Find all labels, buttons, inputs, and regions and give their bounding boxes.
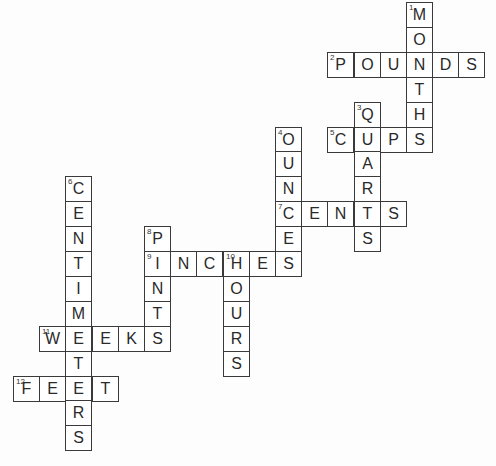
clue-number: 8 [147, 227, 151, 236]
crossword-cell[interactable]: I [65, 276, 92, 302]
cell-letter: E [73, 330, 84, 348]
cell-letter: O [413, 31, 425, 49]
crossword-cell[interactable]: S [406, 127, 433, 153]
cell-letter: O [282, 131, 294, 149]
crossword-cell[interactable]: C6 [65, 176, 92, 202]
clue-number: 12 [16, 377, 25, 386]
crossword-cell[interactable]: C5 [327, 127, 354, 153]
crossword-cell[interactable]: N [144, 276, 171, 302]
crossword-cell[interactable]: T [406, 77, 433, 103]
cell-letter: S [283, 255, 294, 273]
crossword-cell[interactable]: U [275, 151, 302, 177]
cell-letter: O [361, 56, 373, 74]
crossword-cell[interactable]: S [275, 251, 302, 277]
crossword-cell[interactable]: E [65, 326, 92, 352]
crossword-cell[interactable]: K [118, 326, 145, 352]
cell-letter: T [415, 81, 425, 99]
cell-letter: N [73, 230, 85, 248]
cell-letter: E [100, 330, 111, 348]
crossword-cell[interactable]: R [65, 400, 92, 426]
crossword-cell[interactable]: T [354, 201, 381, 227]
crossword-cell[interactable]: T [144, 301, 171, 327]
crossword-cell[interactable]: Q3 [354, 102, 381, 128]
clue-number: 3 [357, 103, 361, 112]
cell-letter: N [414, 56, 426, 74]
crossword-cell[interactable]: N [275, 176, 302, 202]
crossword-cell[interactable]: U [354, 127, 381, 153]
crossword-cell[interactable]: N [327, 201, 354, 227]
crossword-cell[interactable]: S [223, 351, 250, 377]
cell-letter: E [257, 255, 268, 273]
clue-number: 1 [409, 3, 413, 12]
clue-number: 9 [147, 252, 151, 261]
crossword-cell[interactable]: O [223, 276, 250, 302]
cell-letter: N [283, 180, 295, 198]
crossword-cell[interactable]: U [380, 52, 407, 78]
crossword-cell[interactable]: E [65, 376, 92, 402]
crossword-cell[interactable]: I9 [144, 251, 171, 277]
crossword-cell[interactable]: T [65, 251, 92, 277]
cell-letter: U [362, 131, 374, 149]
cell-letter: S [362, 230, 373, 248]
cell-letter: N [335, 205, 347, 223]
cell-letter: R [231, 330, 243, 348]
crossword-cell[interactable]: T [65, 351, 92, 377]
crossword-cell[interactable]: R [223, 326, 250, 352]
crossword-cell[interactable]: S [354, 226, 381, 252]
crossword-cell[interactable]: S [144, 326, 171, 352]
crossword-cell[interactable]: W11 [39, 326, 66, 352]
cell-letter: K [126, 330, 137, 348]
crossword-cell[interactable]: F12 [13, 376, 40, 402]
crossword-cell[interactable]: P2 [327, 52, 354, 78]
crossword-cell[interactable]: R [354, 176, 381, 202]
crossword-cell[interactable]: U [223, 301, 250, 327]
cell-letter: S [388, 205, 399, 223]
crossword-cell[interactable]: E [65, 201, 92, 227]
cell-letter: P [152, 230, 163, 248]
crossword-board: M1ONTHSP2OUDSQ3UARTSO4UNC7ESC5PC6ENTIMET… [0, 0, 496, 466]
cell-letter: U [283, 155, 295, 173]
crossword-cell[interactable]: N [170, 251, 197, 277]
crossword-cell[interactable]: O [354, 52, 381, 78]
cell-letter: C [204, 255, 216, 273]
cell-letter: M [72, 305, 85, 323]
clue-number: 6 [68, 177, 72, 186]
crossword-cell[interactable]: S [380, 201, 407, 227]
cell-letter: E [283, 230, 294, 248]
cell-letter: I [76, 280, 80, 298]
crossword-cell[interactable]: N [406, 52, 433, 78]
cell-letter: T [153, 305, 163, 323]
crossword-cell[interactable]: E [249, 251, 276, 277]
cell-letter: C [335, 131, 347, 149]
crossword-cell[interactable]: O [406, 27, 433, 53]
crossword-cell[interactable]: E [275, 226, 302, 252]
cell-letter: M [413, 6, 426, 24]
clue-number: 7 [278, 202, 282, 211]
crossword-cell[interactable]: T [92, 376, 119, 402]
cell-letter: S [73, 429, 84, 447]
crossword-cell[interactable]: M1 [406, 2, 433, 28]
cell-letter: S [152, 330, 163, 348]
crossword-cell[interactable]: C7 [275, 201, 302, 227]
crossword-cell[interactable]: P [380, 127, 407, 153]
crossword-cell[interactable]: S [65, 425, 92, 451]
crossword-cell[interactable]: N [65, 226, 92, 252]
cell-letter: U [231, 305, 243, 323]
crossword-cell[interactable]: H10 [223, 251, 250, 277]
cell-letter: S [414, 131, 425, 149]
cell-letter: H [414, 106, 426, 124]
crossword-cell[interactable]: E [39, 376, 66, 402]
crossword-cell[interactable]: C [196, 251, 223, 277]
crossword-cell[interactable]: E [301, 201, 328, 227]
crossword-cell[interactable]: M [65, 301, 92, 327]
crossword-cell[interactable]: D [432, 52, 459, 78]
clue-number: 4 [278, 128, 282, 137]
crossword-cell[interactable]: H [406, 102, 433, 128]
crossword-cell[interactable]: O4 [275, 127, 302, 153]
crossword-cell[interactable]: S [458, 52, 485, 78]
crossword-cell[interactable]: P8 [144, 226, 171, 252]
clue-number: 2 [330, 53, 334, 62]
cell-letter: R [73, 404, 85, 422]
crossword-cell[interactable]: E [92, 326, 119, 352]
crossword-cell[interactable]: A [354, 151, 381, 177]
